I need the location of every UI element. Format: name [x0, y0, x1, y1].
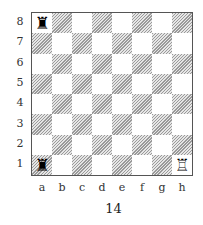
square-g4	[152, 94, 172, 114]
file-label-b: b	[52, 181, 72, 194]
rank-label-7: 7	[14, 35, 26, 48]
square-g5	[152, 74, 172, 94]
rank-label-2: 2	[14, 137, 26, 150]
file-label-g: g	[152, 181, 172, 194]
file-label-d: d	[92, 181, 112, 194]
square-d5	[92, 74, 112, 94]
square-f7	[132, 33, 152, 53]
square-b8	[52, 13, 72, 33]
file-label-f: f	[132, 181, 152, 194]
square-h7	[172, 33, 192, 53]
rank-label-6: 6	[14, 56, 26, 69]
file-label-h: h	[172, 181, 192, 194]
rank-label-3: 3	[14, 117, 26, 130]
file-label-a: a	[32, 181, 52, 194]
square-h2	[172, 135, 192, 155]
square-f1	[132, 155, 152, 175]
square-d3	[92, 114, 112, 134]
diagram-caption: 14	[0, 201, 203, 216]
square-f3	[132, 114, 152, 134]
square-c6	[72, 54, 92, 74]
square-b7	[52, 33, 72, 53]
square-e1	[112, 155, 132, 175]
file-label-e: e	[112, 181, 132, 194]
square-g8	[152, 13, 172, 33]
square-e5	[112, 74, 132, 94]
square-c1	[72, 155, 92, 175]
square-b3	[52, 114, 72, 134]
square-h4	[172, 94, 192, 114]
black-rook-icon: ♜	[32, 155, 52, 175]
rank-label-4: 4	[14, 96, 26, 109]
square-g7	[152, 33, 172, 53]
rank-label-8: 8	[14, 15, 26, 28]
square-b4	[52, 94, 72, 114]
square-f4	[132, 94, 152, 114]
square-a5	[32, 74, 52, 94]
square-g6	[152, 54, 172, 74]
square-e6	[112, 54, 132, 74]
rank-label-5: 5	[14, 76, 26, 89]
square-f5	[132, 74, 152, 94]
square-d2	[92, 135, 112, 155]
black-rook-icon: ♜	[32, 13, 52, 33]
white-rook-icon: ♖	[172, 155, 192, 175]
square-d4	[92, 94, 112, 114]
square-g2	[152, 135, 172, 155]
square-c5	[72, 74, 92, 94]
square-a6	[32, 54, 52, 74]
square-e2	[112, 135, 132, 155]
square-c4	[72, 94, 92, 114]
square-d7	[92, 33, 112, 53]
square-e3	[112, 114, 132, 134]
square-h6	[172, 54, 192, 74]
square-e8	[112, 13, 132, 33]
square-e4	[112, 94, 132, 114]
square-d6	[92, 54, 112, 74]
square-g3	[152, 114, 172, 134]
square-g1	[152, 155, 172, 175]
rank-label-1: 1	[14, 157, 26, 170]
square-b1	[52, 155, 72, 175]
square-c8	[72, 13, 92, 33]
square-e7	[112, 33, 132, 53]
square-d1	[92, 155, 112, 175]
square-a7	[32, 33, 52, 53]
square-b5	[52, 74, 72, 94]
square-f6	[132, 54, 152, 74]
square-c2	[72, 135, 92, 155]
square-h8	[172, 13, 192, 33]
diagram-number: 14	[105, 201, 122, 216]
square-b6	[52, 54, 72, 74]
square-a2	[32, 135, 52, 155]
square-a3	[32, 114, 52, 134]
square-f8	[132, 13, 152, 33]
square-b2	[52, 135, 72, 155]
square-a4	[32, 94, 52, 114]
square-c7	[72, 33, 92, 53]
chess-board: ♜♜♖	[31, 12, 193, 176]
file-label-c: c	[72, 181, 92, 194]
square-f2	[132, 135, 152, 155]
square-h3	[172, 114, 192, 134]
square-c3	[72, 114, 92, 134]
square-h5	[172, 74, 192, 94]
square-d8	[92, 13, 112, 33]
